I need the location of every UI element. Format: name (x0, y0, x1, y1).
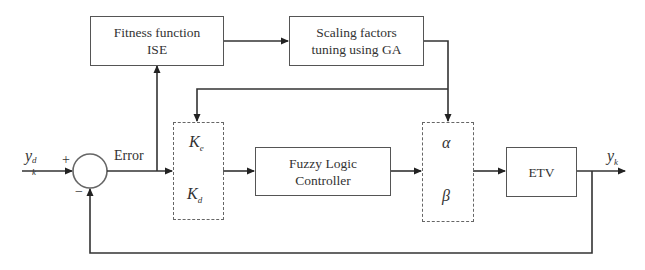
ke-label: Ke (189, 133, 204, 153)
reference-sub: k (32, 164, 36, 180)
beta-label: β (442, 187, 450, 205)
summing-junction (73, 154, 107, 188)
block-diagram: Fitness function ISE Scaling factors tun… (0, 0, 645, 270)
fitness-function-block: Fitness function ISE (90, 16, 224, 66)
output-sub: k (614, 157, 618, 167)
scaling-to-output-gains-arrow (424, 41, 448, 121)
etv-plant-block: ETV (506, 147, 577, 197)
controller-line2: Controller (289, 172, 357, 189)
ke-base: K (189, 133, 200, 150)
error-label: Error (114, 148, 144, 164)
kd-label: Kd (187, 185, 202, 205)
fitness-line2: ISE (114, 41, 201, 58)
scaling-line1: Scaling factors (311, 24, 401, 41)
output-signal-label: yk (607, 148, 618, 170)
etv-label: ETV (528, 164, 554, 181)
scaling-line2: tuning using GA (311, 41, 401, 58)
kd-sub: d (198, 195, 203, 205)
reference-signal-label: ydk (25, 148, 41, 164)
controller-line1: Fuzzy Logic (289, 155, 357, 172)
minus-sign: − (75, 184, 83, 200)
kd-base: K (187, 185, 198, 202)
fuzzy-logic-controller-block: Fuzzy Logic Controller (255, 147, 391, 196)
plus-sign: + (62, 152, 70, 168)
scaling-factors-block: Scaling factors tuning using GA (289, 16, 424, 66)
reference-base: y (25, 147, 32, 164)
ke-sub: e (200, 143, 204, 153)
scaling-to-input-gains-arrow (197, 89, 448, 121)
fitness-line1: Fitness function (114, 24, 201, 41)
alpha-label: α (442, 134, 450, 152)
